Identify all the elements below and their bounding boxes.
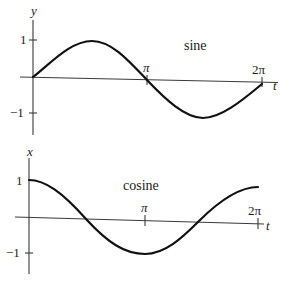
sine-tick-1-label: 1	[20, 32, 27, 47]
sine-curve	[33, 41, 262, 118]
sine-plot: y 1 −1 π 2π t sine	[10, 3, 278, 135]
cosine-tick-2pi-label: 2π	[248, 203, 262, 218]
sine-tick-2pi-label: 2π	[252, 62, 266, 77]
cosine-t-axis	[15, 217, 264, 224]
sine-t-axis-label: t	[273, 78, 277, 93]
cosine-x-axis-label: x	[26, 144, 33, 159]
sine-tick-pi-label: π	[143, 60, 150, 75]
sine-y-axis-label: y	[29, 3, 37, 18]
cosine-curve-label: cosine	[123, 178, 159, 193]
cosine-t-axis-label: t	[266, 218, 270, 233]
sine-curve-label: sine	[184, 38, 207, 53]
cosine-tick-1-label: 1	[16, 173, 23, 188]
figure: y 1 −1 π 2π t sine x 1 −1 π 2π t cosine	[0, 0, 281, 289]
sine-tick-minus-1-label: −1	[10, 105, 24, 120]
cosine-tick-minus-1-label: −1	[6, 245, 20, 260]
cosine-plot: x 1 −1 π 2π t cosine	[6, 144, 270, 274]
cosine-tick-pi-label: π	[141, 200, 148, 215]
